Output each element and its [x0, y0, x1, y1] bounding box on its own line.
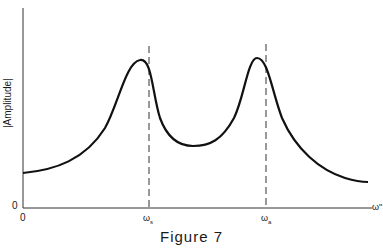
figure-caption: Figure 7	[0, 228, 383, 245]
x-axis-label: ω"	[372, 203, 382, 212]
subscript-a: a	[268, 219, 271, 225]
subscript-s: s	[150, 219, 153, 225]
y-axis-label: |Amplitude|	[2, 78, 13, 128]
amplitude-curve	[23, 58, 368, 182]
omega-symbol: ω	[143, 213, 150, 223]
y-origin-label: 0	[12, 201, 18, 211]
omega-a-tick-label: ωa	[261, 214, 271, 225]
amplitude-plot	[0, 0, 383, 248]
omega-symbol: ω	[261, 213, 268, 223]
x-origin-label: 0	[20, 213, 26, 223]
omega-s-tick-label: ωs	[143, 214, 153, 225]
